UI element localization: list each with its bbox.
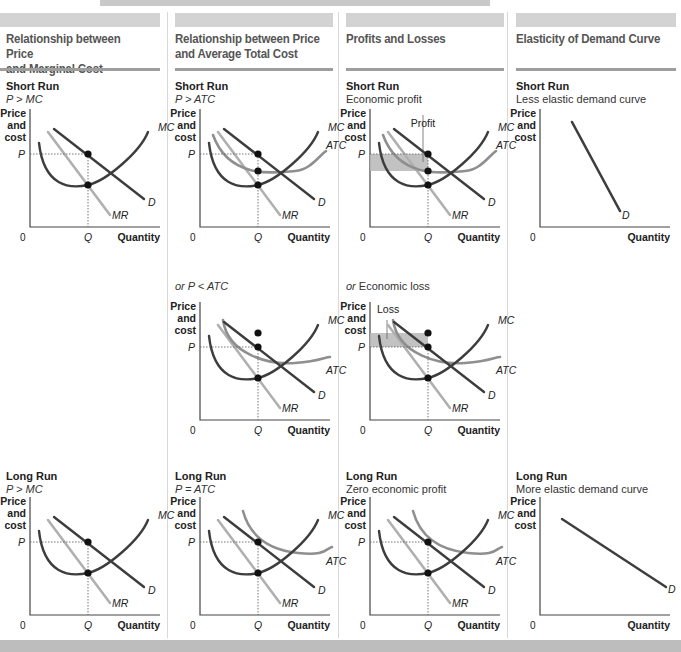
bottom-decorative-bar (0, 640, 681, 652)
y-axis-label: Price (510, 107, 536, 119)
origin-label: 0 (20, 620, 26, 631)
chart-lr-price-eq-atc: Priceandcost0QuantityMRDMCATCPQ (170, 495, 346, 631)
y-axis-label: cost (4, 519, 26, 531)
mc-label: MC (328, 509, 345, 521)
demand-label: D (488, 389, 496, 401)
demand-label: D (318, 196, 326, 208)
mc-label: MC (328, 121, 345, 133)
atc-label: ATC (325, 364, 347, 376)
x-axis-label: Quantity (457, 231, 500, 243)
equilibrium-point (254, 569, 261, 576)
equilibrium-point (424, 167, 431, 174)
demand-label: D (488, 196, 496, 208)
mr-label: MR (452, 209, 469, 221)
equilibrium-point (84, 150, 91, 157)
equilibrium-point (254, 181, 261, 188)
origin-label: 0 (530, 620, 536, 631)
equilibrium-point (424, 374, 431, 381)
chart-lr-price-mc: Priceandcost0QuantityMRDMCPQ (0, 495, 174, 631)
demand-label: D (318, 389, 326, 401)
y-axis-label: and (517, 507, 536, 519)
x-axis-label: Quantity (117, 619, 160, 631)
mr-label: MR (282, 209, 299, 221)
demand-curve (54, 517, 144, 587)
equilibrium-point (424, 569, 431, 576)
atc-curve (223, 320, 330, 363)
diagram-charts: Priceandcost0QuantityMRDMCPQPriceandcost… (0, 0, 681, 652)
y-axis-label: cost (344, 131, 366, 143)
mr-curve (218, 520, 280, 603)
quantity-label: Q (84, 231, 92, 243)
atc-label: ATC (325, 139, 347, 151)
price-label: P (358, 536, 365, 548)
mr-curve (218, 325, 280, 408)
atc-label: ATC (325, 555, 347, 567)
mr-curve (48, 132, 110, 215)
axes (540, 109, 670, 227)
equilibrium-point (254, 343, 261, 350)
y-axis-label: and (347, 507, 366, 519)
quantity-label: Q (254, 424, 262, 436)
equilibrium-point (254, 374, 261, 381)
equilibrium-point (84, 538, 91, 545)
mc-label: MC (498, 121, 515, 133)
y-axis-label: and (7, 119, 26, 131)
atc-label: ATC (495, 139, 517, 151)
x-axis-label: Quantity (457, 619, 500, 631)
price-label: P (188, 536, 195, 548)
atc-curve (213, 135, 326, 173)
equilibrium-point (424, 150, 431, 157)
price-label: P (188, 341, 195, 353)
x-axis-label: Quantity (287, 619, 330, 631)
atc-curve (243, 511, 332, 554)
chart-sr-loss: Priceandcost0QuantityLossMRDMCATCPQ (340, 300, 516, 436)
demand-label: D (622, 209, 630, 221)
y-axis-label: and (517, 119, 536, 131)
chart-sr-less-elastic: Priceandcost0QuantityD (510, 107, 670, 243)
origin-label: 0 (190, 425, 196, 436)
mc-label: MC (498, 509, 515, 521)
axes (370, 497, 500, 615)
y-axis-label: and (177, 312, 196, 324)
mr-label: MR (282, 597, 299, 609)
origin-label: 0 (190, 620, 196, 631)
equilibrium-point (254, 329, 261, 336)
y-axis-label: cost (174, 324, 196, 336)
y-axis-label: Price (170, 300, 196, 312)
equilibrium-point (424, 329, 431, 336)
quantity-label: Q (254, 619, 262, 631)
equilibrium-point (84, 181, 91, 188)
chart-sr-price-atc: Priceandcost0QuantityMRDMCATCPQ (170, 107, 346, 243)
axes (540, 497, 670, 615)
origin-label: 0 (530, 232, 536, 243)
equilibrium-point (424, 181, 431, 188)
demand-label: D (668, 583, 676, 595)
y-axis-label: Price (340, 107, 366, 119)
mr-label: MR (452, 402, 469, 414)
demand-label: D (488, 584, 496, 596)
price-label: P (18, 536, 25, 548)
chart-lr-more-elastic: Priceandcost0QuantityD (510, 495, 676, 631)
atc-curve (413, 511, 502, 554)
mc-label: MC (158, 121, 175, 133)
price-label: P (358, 341, 365, 353)
mr-curve (48, 520, 110, 603)
y-axis-label: Price (170, 107, 196, 119)
y-axis-label: cost (344, 519, 366, 531)
chart-sr-price-below-atc: Priceandcost0QuantityMRDMCATCPQ (170, 300, 346, 436)
mr-label: MR (112, 209, 129, 221)
demand-curve (224, 322, 314, 392)
chart-lr-zero-profit: Priceandcost0QuantityMRDMCATCPQ (340, 495, 516, 631)
mc-label: MC (158, 509, 175, 521)
equilibrium-point (84, 569, 91, 576)
x-axis-label: Quantity (627, 619, 670, 631)
profit-label: Profit (411, 117, 436, 129)
demand-label: D (318, 584, 326, 596)
x-axis-label: Quantity (457, 424, 500, 436)
atc-label: ATC (495, 555, 517, 567)
axes (30, 109, 160, 227)
origin-label: 0 (360, 425, 366, 436)
mc-label: MC (328, 314, 345, 326)
chart-sr-profit: Priceandcost0QuantityProfitMRDMCATCPQ (340, 107, 516, 243)
y-axis-label: Price (340, 300, 366, 312)
